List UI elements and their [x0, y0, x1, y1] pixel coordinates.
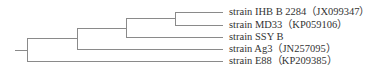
leaf-label-ag3: strain Ag3（JN257095）: [229, 43, 336, 55]
leaf-label-ssy-b: strain SSY B: [229, 31, 283, 43]
leaf-label-e88: strain E88（KP209385）: [229, 55, 337, 67]
leaf-labels: strain IHB B 2284（JX099347） strain MD33（…: [0, 0, 376, 73]
leaf-label-ihb-b-2284: strain IHB B 2284（JX099347）: [229, 6, 369, 18]
leaf-label-md33: strain MD33（KP059106）: [229, 19, 347, 31]
